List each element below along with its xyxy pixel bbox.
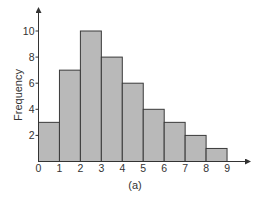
chart-caption: (a) (128, 179, 141, 191)
histogram-bar (80, 31, 101, 162)
x-tick-label: 2 (77, 162, 83, 174)
histogram-bar (59, 70, 80, 161)
y-axis-label: Frequency (12, 69, 24, 121)
y-tick-label: 6 (29, 77, 35, 89)
y-tick-label: 4 (29, 103, 35, 115)
x-tick-label: 3 (98, 162, 104, 174)
histogram-bars (39, 31, 228, 162)
x-tick-label: 9 (224, 162, 230, 174)
histogram-bar (164, 122, 185, 161)
histogram-bar (185, 135, 206, 161)
histogram-chart: 246810 0123456789 Frequency (a) (0, 0, 261, 205)
x-tick-label: 5 (140, 162, 146, 174)
x-tick-label: 1 (57, 162, 63, 174)
y-axis-ticks: 246810 (23, 25, 39, 141)
y-tick-label: 8 (29, 51, 35, 63)
x-tick-label: 4 (119, 162, 125, 174)
x-tick-label: 6 (161, 162, 167, 174)
histogram-bar (39, 122, 60, 161)
histogram-bar (206, 148, 227, 161)
histogram-bar (101, 57, 122, 161)
y-tick-label: 2 (29, 129, 35, 141)
x-tick-label: 7 (182, 162, 188, 174)
x-tick-label: 8 (203, 162, 209, 174)
x-tick-label: 0 (36, 162, 42, 174)
histogram-bar (122, 83, 143, 161)
y-tick-label: 10 (23, 25, 35, 37)
x-axis-ticks: 0123456789 (36, 162, 231, 174)
histogram-bar (143, 109, 164, 161)
